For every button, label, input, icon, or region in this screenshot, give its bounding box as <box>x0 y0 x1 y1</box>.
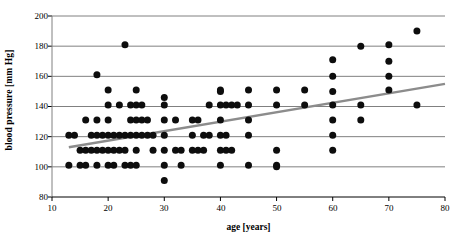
x-tick-label: 30 <box>160 203 169 213</box>
data-point <box>357 43 364 50</box>
data-points <box>65 28 420 184</box>
y-axis-title: blood pressure [mm Hg] <box>0 0 18 200</box>
data-point <box>150 132 157 139</box>
data-point <box>329 117 336 124</box>
data-point <box>228 147 235 154</box>
data-point <box>93 162 100 169</box>
x-axis-tick-marks <box>52 197 445 201</box>
data-point <box>245 162 252 169</box>
data-point <box>245 117 252 124</box>
data-point <box>178 162 185 169</box>
x-tick-label: 10 <box>48 203 57 213</box>
data-point <box>301 101 308 108</box>
data-point <box>206 101 213 108</box>
data-point <box>121 41 128 48</box>
data-point <box>144 117 151 124</box>
x-axis-title: age [years] <box>52 222 445 232</box>
x-tick-label: 40 <box>217 203 226 213</box>
data-point <box>133 162 140 169</box>
data-point <box>385 73 392 80</box>
data-point <box>138 101 145 108</box>
data-point <box>200 147 207 154</box>
data-point <box>133 147 140 154</box>
data-point <box>273 86 280 93</box>
data-point <box>161 94 168 101</box>
data-point <box>329 101 336 108</box>
data-point <box>413 28 420 35</box>
y-axis-tick-labels: 200 180 160 140 120 100 80 <box>20 0 48 242</box>
y-axis-title-text: blood pressure [mm Hg] <box>4 50 14 151</box>
data-point <box>273 163 280 170</box>
data-point <box>161 177 168 184</box>
data-point <box>161 132 168 139</box>
data-point <box>385 41 392 48</box>
y-axis-tick-marks <box>48 16 52 197</box>
data-point <box>357 117 364 124</box>
data-point <box>121 147 128 154</box>
x-tick-label: 60 <box>329 203 338 213</box>
data-point <box>245 86 252 93</box>
data-point <box>189 132 196 139</box>
data-point <box>301 86 308 93</box>
y-tick-label: 160 <box>35 72 49 81</box>
data-point <box>93 71 100 78</box>
x-tick-label: 80 <box>441 203 450 213</box>
y-tick-label: 120 <box>35 133 49 142</box>
data-point <box>82 162 89 169</box>
data-point <box>385 58 392 65</box>
data-point <box>65 162 72 169</box>
data-point <box>329 73 336 80</box>
y-tick-label: 100 <box>35 163 49 172</box>
data-point <box>110 162 117 169</box>
data-point <box>178 147 185 154</box>
data-point <box>161 162 168 169</box>
data-point <box>329 147 336 154</box>
data-point <box>273 147 280 154</box>
data-point <box>234 101 241 108</box>
scatter-chart-figure: blood pressure [mm Hg] 200 180 160 140 1… <box>0 0 459 242</box>
data-point <box>206 132 213 139</box>
data-point <box>116 101 123 108</box>
data-point <box>385 86 392 93</box>
data-point <box>217 88 224 95</box>
x-tick-label: 50 <box>273 203 282 213</box>
data-point <box>82 117 89 124</box>
y-tick-label: 80 <box>39 193 48 202</box>
data-point <box>223 132 230 139</box>
data-point <box>329 56 336 63</box>
data-point <box>105 86 112 93</box>
data-point <box>413 101 420 108</box>
data-point <box>329 88 336 95</box>
y-tick-label: 180 <box>35 42 49 51</box>
data-point <box>161 147 168 154</box>
y-tick-label: 140 <box>35 102 49 111</box>
data-point <box>172 117 179 124</box>
data-point <box>329 132 336 139</box>
data-point <box>245 101 252 108</box>
data-point <box>105 101 112 108</box>
data-point <box>133 86 140 93</box>
data-point <box>194 117 201 124</box>
data-point <box>161 117 168 124</box>
data-point <box>93 117 100 124</box>
data-point <box>105 117 112 124</box>
data-point <box>161 101 168 108</box>
data-point <box>217 162 224 169</box>
data-point <box>217 117 224 124</box>
data-point <box>150 147 157 154</box>
data-point <box>357 101 364 108</box>
data-point <box>71 132 78 139</box>
data-point <box>245 132 252 139</box>
y-tick-label: 200 <box>35 12 49 21</box>
x-tick-label: 70 <box>385 203 394 213</box>
x-tick-label: 20 <box>104 203 113 213</box>
data-point <box>273 101 280 108</box>
